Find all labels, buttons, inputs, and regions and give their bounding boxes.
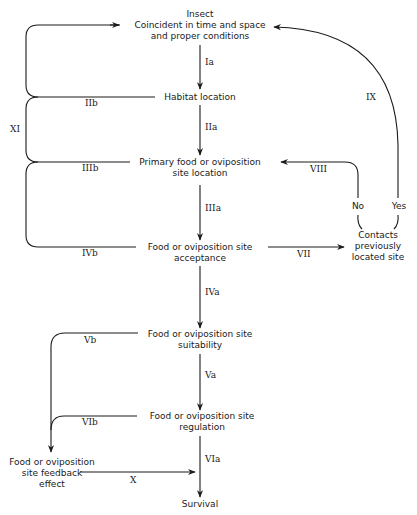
arrow-vb — [51, 333, 138, 452]
node-primary-line-1: Primary food or oviposition — [139, 157, 260, 167]
edge-label-iib: IIb — [85, 98, 98, 108]
branch-label-yes: Yes — [391, 201, 407, 211]
node-regulation-line-1: Food or oviposition site — [150, 411, 255, 421]
node-site-suitability: Food or oviposition site suitability — [148, 329, 253, 350]
node-site-acceptance: Food or oviposition site acceptance — [148, 242, 253, 263]
curve-yes-lower — [394, 215, 398, 229]
edge-label-ia: Ia — [205, 57, 215, 67]
arrow-ix — [274, 27, 398, 198]
branch-label-no: No — [352, 201, 365, 211]
node-suitability-line-1: Food or oviposition site — [148, 329, 253, 339]
host-selection-flow-diagram: Insect Coincident in time and space and … — [0, 0, 417, 515]
node-regulation-line-2: regulation — [179, 422, 225, 432]
edge-label-iiia: IIIa — [205, 203, 222, 213]
node-feedback-line-2: site feedback — [22, 468, 83, 478]
node-contacts-line-3: located site — [352, 252, 405, 262]
edge-label-vii: VII — [296, 249, 311, 259]
node-insect-line-1: Insect — [186, 9, 214, 19]
node-insect-line-2: Coincident in time and space — [134, 20, 266, 30]
node-primary-line-2: site location — [173, 168, 228, 178]
edge-label-ivb: IVb — [82, 248, 98, 258]
node-insect-line-3: and proper conditions — [151, 31, 250, 41]
edge-label-x: X — [130, 475, 137, 485]
node-site-feedback-effect: Food or oviposition site feedback effect — [9, 457, 95, 489]
edge-label-iia: IIa — [205, 122, 218, 132]
edge-label-vb: Vb — [83, 335, 96, 345]
node-feedback-line-1: Food or oviposition — [9, 457, 95, 467]
edge-label-vib: VIb — [81, 417, 98, 427]
node-site-regulation: Food or oviposition site regulation — [150, 411, 255, 432]
edge-label-xi: XI — [10, 124, 20, 134]
curve-no-lower — [358, 215, 362, 229]
edge-label-va: Va — [204, 370, 217, 380]
node-feedback-line-3: effect — [39, 479, 65, 489]
loop-top-return — [26, 25, 120, 97]
node-acceptance-line-1: Food or oviposition site — [148, 242, 253, 252]
node-suitability-line-2: suitability — [178, 340, 223, 350]
edge-label-iiib: IIIb — [82, 163, 99, 173]
node-survival: Survival — [182, 499, 218, 509]
edge-label-via: VIa — [204, 454, 221, 464]
node-primary-site-location: Primary food or oviposition site locatio… — [139, 157, 260, 178]
node-survival-line-1: Survival — [182, 499, 218, 509]
edge-label-ix: IX — [366, 92, 377, 102]
node-contacts-line-2: previously — [355, 241, 402, 251]
node-insect: Insect Coincident in time and space and … — [134, 9, 266, 41]
edge-label-viii: VIII — [309, 164, 328, 174]
bracket-iib-iiib — [26, 97, 38, 162]
node-contacts-previously-located-site: Contacts previously located site — [352, 230, 405, 262]
edge-label-iva: IVa — [205, 287, 220, 297]
node-habitat-location: Habitat location — [164, 92, 236, 102]
node-contacts-line-1: Contacts — [358, 230, 398, 240]
line-ivb — [26, 162, 136, 247]
node-acceptance-line-2: acceptance — [174, 253, 226, 263]
node-habitat-line-1: Habitat location — [164, 92, 236, 102]
